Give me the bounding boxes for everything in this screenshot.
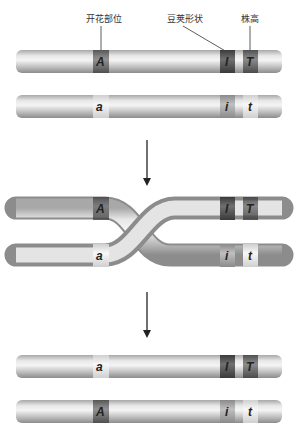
leader-line-pod — [183, 26, 227, 52]
crossing-over-diagram: A I T a i t A I T a i t — [0, 0, 298, 437]
allele-A: A — [95, 55, 105, 69]
allele-A: A — [95, 202, 105, 216]
allele-a: a — [96, 360, 103, 374]
chromosome-stage2-crossover: A I T a i t — [16, 197, 282, 267]
allele-A: A — [95, 405, 105, 419]
chromosome-stage3-bottom: A i t — [16, 400, 282, 423]
allele-a: a — [96, 249, 103, 263]
chromosome-stage1-top: A I T — [16, 50, 282, 73]
arrow-down-icon — [143, 292, 151, 338]
chromosome-stage3-top: a I T — [16, 355, 282, 378]
chromosome-stage1-bottom: a i t — [16, 95, 282, 118]
arrow-down-icon — [143, 140, 151, 186]
allele-a: a — [96, 100, 103, 114]
